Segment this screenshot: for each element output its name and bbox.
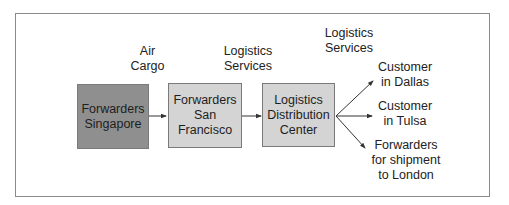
edge-label-air-cargo: Air Cargo bbox=[125, 44, 170, 74]
node-forwarders-london: Forwarders for shipment to London bbox=[360, 138, 452, 183]
node-forwarders-singapore: Forwarders Singapore bbox=[77, 84, 149, 149]
node-logistics-distribution-center: Logistics Distribution Center bbox=[262, 83, 335, 147]
edge-label-logistics-services-1: Logistics Services bbox=[213, 44, 283, 74]
edge-label-logistics-services-2: Logistics Services bbox=[314, 26, 384, 56]
node-forwarders-san-francisco: Forwarders San Francisco bbox=[168, 83, 242, 148]
node-customer-dallas: Customer in Dallas bbox=[365, 60, 445, 90]
node-customer-tulsa: Customer in Tulsa bbox=[365, 99, 445, 129]
